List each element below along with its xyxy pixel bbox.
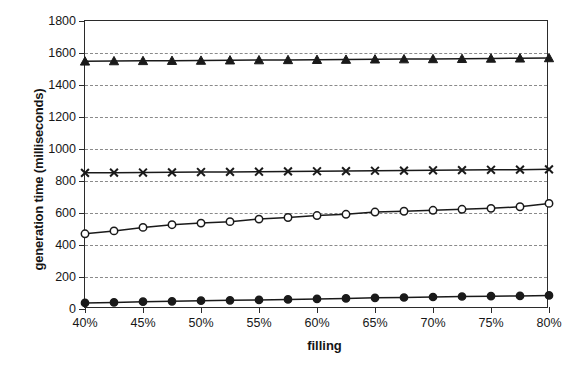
marker-filled-circle: [400, 294, 407, 301]
marker-filled-circle: [487, 293, 494, 300]
marker-open-circle: [139, 224, 146, 231]
marker-open-circle: [545, 200, 552, 207]
marker-open-circle: [342, 211, 349, 218]
marker-filled-circle: [255, 296, 262, 303]
y-tick-label: 600: [55, 206, 76, 220]
x-axis-title-wrap: filling: [0, 338, 577, 353]
marker-filled-circle: [371, 294, 378, 301]
marker-open-circle: [168, 221, 175, 228]
y-tick-label: 1400: [48, 78, 76, 92]
y-tick-label: 1800: [48, 14, 76, 28]
series-triangle-series: [80, 53, 553, 65]
marker-open-circle: [371, 208, 378, 215]
x-tick-label: 60%: [304, 316, 329, 330]
marker-filled-circle: [168, 298, 175, 305]
marker-open-circle: [81, 230, 88, 237]
marker-open-circle: [197, 219, 204, 226]
marker-open-circle: [226, 218, 233, 225]
marker-open-circle: [255, 215, 262, 222]
marker-filled-circle: [139, 298, 146, 305]
marker-filled-circle: [81, 299, 88, 306]
marker-open-circle: [110, 227, 117, 234]
x-tick-label: 45%: [130, 316, 155, 330]
marker-open-circle: [429, 207, 436, 214]
marker-open-circle: [313, 212, 320, 219]
marker-filled-circle: [226, 297, 233, 304]
y-tick-label: 1000: [48, 142, 76, 156]
chart-container: generation time (milliseconds) 020040060…: [0, 0, 577, 374]
x-tick-mark: [549, 307, 550, 313]
series-svg: [85, 21, 549, 309]
marker-open-circle: [458, 206, 465, 213]
series-open-circle-series: [81, 200, 552, 238]
x-tick-label: 65%: [362, 316, 387, 330]
marker-open-circle: [487, 205, 494, 212]
x-axis-title: filling: [307, 338, 342, 353]
series-filled-circle-series: [81, 292, 552, 307]
series-cross-series: [81, 165, 553, 176]
marker-filled-circle: [545, 292, 552, 299]
marker-filled-circle: [110, 299, 117, 306]
y-tick-label: 1600: [48, 46, 76, 60]
y-axis-title: generation time (milliseconds): [31, 50, 46, 310]
y-tick-label: 0: [69, 302, 76, 316]
series-layer: [85, 21, 547, 307]
marker-open-circle: [400, 208, 407, 215]
y-tick-label: 1200: [48, 110, 76, 124]
marker-open-circle: [284, 214, 291, 221]
marker-open-circle: [516, 203, 523, 210]
marker-filled-circle: [342, 295, 349, 302]
x-tick-label: 75%: [478, 316, 503, 330]
y-tick-label: 200: [55, 270, 76, 284]
marker-filled-circle: [429, 293, 436, 300]
plot-area: 020040060080010001200140016001800 40%45%…: [84, 20, 548, 308]
x-tick-label: 55%: [246, 316, 271, 330]
x-tick-label: 40%: [72, 316, 97, 330]
y-tick-label: 400: [55, 238, 76, 252]
marker-filled-circle: [458, 293, 465, 300]
marker-filled-circle: [313, 295, 320, 302]
y-tick-label: 800: [55, 174, 76, 188]
x-tick-label: 70%: [420, 316, 445, 330]
x-tick-label: 80%: [536, 316, 561, 330]
marker-filled-circle: [516, 292, 523, 299]
marker-filled-circle: [197, 297, 204, 304]
x-tick-label: 50%: [188, 316, 213, 330]
marker-filled-circle: [284, 296, 291, 303]
